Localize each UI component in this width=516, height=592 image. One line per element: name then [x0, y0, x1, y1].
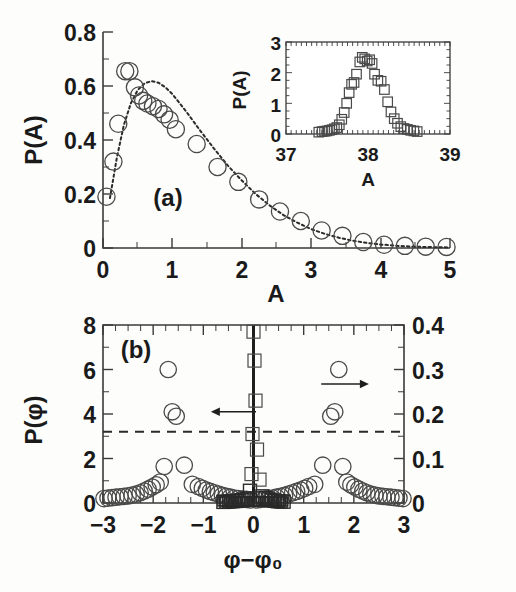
panel-b-ytick-label-2: 4	[83, 402, 96, 428]
panel-a-xtick-label-3: 3	[305, 257, 318, 283]
panel-a-ytick-label-4: 0.8	[64, 20, 96, 46]
inset-x-axis-title: A	[361, 169, 375, 190]
figure-container: 0.8 0.6 0.4 0.2 0 0 1 2 3 4 5 P(A) A (a)	[0, 0, 516, 592]
inset-ytick-label-1: 1	[270, 95, 281, 116]
panel-b-right-y-ticks	[394, 325, 404, 503]
panel-b-xtick-label-3: 0	[247, 512, 260, 538]
panel-b-ytick-label-4: 8	[83, 313, 96, 339]
panel-a-x-axis-title: A	[267, 280, 284, 307]
panel-b-xtick-label-6: 3	[398, 512, 411, 538]
panel-b-tag: (b)	[121, 336, 152, 363]
panel-a-ytick-label-1: 0.2	[64, 182, 96, 208]
inset-xtick-label-2: 39	[439, 144, 460, 165]
panel-a-ytick-label-0: 0	[83, 236, 96, 262]
figure-svg: 0.8 0.6 0.4 0.2 0 0 1 2 3 4 5 P(A) A (a)	[0, 0, 516, 592]
inset-xtick-label-1: 38	[357, 144, 378, 165]
panel-a-y-ticks	[103, 32, 113, 248]
panel-b-ytick-label-1: 2	[83, 447, 96, 473]
panel-a-xtick-label-5: 5	[444, 257, 457, 283]
panel-b-xtick-label-2: −1	[190, 512, 216, 538]
panel-b-xtick-label-5: 2	[348, 512, 361, 538]
panel-b-y-axis-title: P(φ)	[20, 395, 47, 444]
inset-xtick-label-0: 37	[275, 144, 296, 165]
panel-b-right-ytick-label-2: 0.2	[412, 402, 444, 428]
panel-b-x-axis-title: φ−φ₀	[223, 546, 282, 573]
panel-a-xtick-label-1: 1	[166, 257, 179, 283]
panel-b-right-ytick-label-4: 0.4	[412, 313, 444, 339]
panel-a-xtick-label-0: 0	[97, 257, 110, 283]
panel-a-xtick-label-4: 4	[375, 257, 388, 283]
panel-a-tag: (a)	[153, 184, 182, 211]
panel-a-ytick-label-3: 0.6	[64, 74, 96, 100]
inset-ytick-label-3: 3	[270, 33, 281, 54]
inset-ytick-label-2: 2	[270, 64, 281, 85]
panel-b-xtick-label-0: −3	[90, 512, 116, 538]
panel-a-ytick-label-2: 0.4	[64, 128, 96, 154]
panel-b-left-y-ticks	[103, 325, 113, 503]
panel-b-xtick-label-1: −2	[140, 512, 166, 538]
panel-a-inset: 3 2 1 0 37 38 39 P(A) A	[229, 33, 461, 190]
panel-b-ytick-label-3: 6	[83, 358, 96, 384]
panel-a-xtick-label-2: 2	[236, 257, 249, 283]
inset-ytick-label-0: 0	[270, 125, 281, 146]
panel-b-right-ytick-label-0: 0	[412, 491, 425, 517]
panel-b-xtick-label-4: 1	[298, 512, 311, 538]
panel-a-y-axis-title: P(A)	[20, 115, 47, 164]
panel-b-right-arrow	[321, 380, 369, 388]
panel-b-right-ytick-label-1: 0.1	[412, 447, 444, 473]
panel-b-right-ytick-label-3: 0.3	[412, 358, 444, 384]
panel-b: 8 6 4 2 0 0.4 0.3 0.2 0.1 0 −3 −2 −1 0 1…	[20, 313, 444, 573]
panel-b-left-arrow	[211, 408, 256, 416]
inset-y-axis-title: P(A)	[229, 70, 250, 109]
